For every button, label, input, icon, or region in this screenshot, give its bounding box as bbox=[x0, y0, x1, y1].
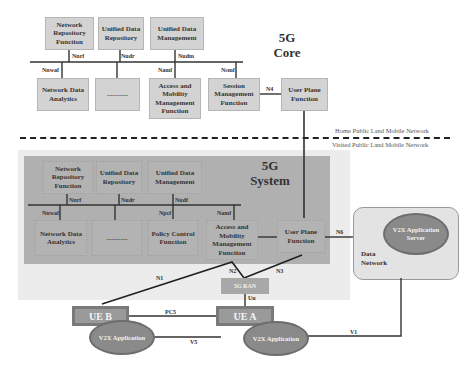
sys-udm-box: Unified Data Management bbox=[148, 161, 202, 194]
sys-if-v1: V1 bbox=[350, 329, 357, 336]
core-udm-label: Unified Data Management bbox=[152, 25, 202, 42]
core-amf-box: Access and Mobility Management Function bbox=[149, 78, 201, 119]
data-network-label: Data Network bbox=[361, 250, 401, 268]
plmn-boundary-line bbox=[20, 137, 450, 139]
sys-title: 5GSystem bbox=[240, 158, 300, 188]
sys-title-line2: System bbox=[240, 173, 300, 188]
sys-if-n2: N2 bbox=[229, 268, 236, 275]
sys-if-nudr: Nudr bbox=[121, 197, 135, 204]
sys-pcf-label: Policy Control Function bbox=[150, 230, 196, 247]
core-if-namf: Namf bbox=[158, 67, 172, 74]
home-plmn-label: Home Public Land Mobile Network bbox=[335, 127, 429, 134]
core-nwdaf-box: Network Data Analytics bbox=[37, 78, 89, 111]
sys-dots-box: ............ bbox=[92, 220, 142, 256]
sys-title-line1: 5G bbox=[240, 158, 300, 173]
sys-upf-box: User Plane Function bbox=[277, 220, 325, 253]
sys-udr-label: Unified Data Repository bbox=[98, 169, 140, 186]
sys-if-n1: N1 bbox=[156, 275, 163, 282]
sys-amf-box: Access and Mobility Management Function bbox=[206, 220, 258, 260]
sys-amf-label: Access and Mobility Management Function bbox=[208, 223, 256, 257]
core-smf-box: Session Management Function bbox=[208, 78, 260, 111]
sys-if-n6: N6 bbox=[336, 229, 343, 236]
sys-if-uu: Uu bbox=[248, 295, 256, 302]
core-if-nudr: Nudr bbox=[121, 53, 135, 60]
core-if-nnrf: Nnrf bbox=[72, 53, 84, 60]
core-title-line1: 5G bbox=[262, 30, 312, 45]
core-dots-label: ............ bbox=[107, 90, 128, 99]
ran-label: 5G RAN bbox=[234, 283, 256, 289]
sys-nwdaf-box: Network Data Analytics bbox=[35, 220, 87, 256]
core-udm-box: Unified Data Management bbox=[150, 17, 204, 50]
visited-plmn-label: Visited Public Land Mobile Network bbox=[332, 141, 428, 148]
sys-if-nnrf: Nnrf bbox=[69, 197, 81, 204]
sys-upf-label: User Plane Function bbox=[279, 228, 323, 245]
core-nrf-label: Network Repository Function bbox=[47, 21, 92, 47]
sys-nrf-box: Network Repository Function bbox=[43, 161, 93, 194]
sys-nrf-label: Network Repository Function bbox=[45, 165, 91, 191]
5g-ran-box: 5G RAN bbox=[221, 278, 269, 294]
core-if-nnwaf: Nnwaf bbox=[42, 67, 59, 74]
sys-udm-label: Unified Data Management bbox=[150, 169, 200, 186]
core-title-line2: Core bbox=[262, 45, 312, 60]
sys-nwdaf-label: Network Data Analytics bbox=[37, 230, 85, 247]
sys-if-v5: V5 bbox=[190, 339, 197, 346]
core-upf-label: User Plane Function bbox=[283, 86, 326, 103]
core-upf-box: User Plane Function bbox=[281, 78, 328, 111]
ue-b-label: UE B bbox=[89, 311, 112, 322]
sys-if-namf: Namf bbox=[217, 210, 231, 217]
sys-if-npcf: Npcf bbox=[159, 210, 171, 217]
core-udr-label: Unified Data Repository bbox=[100, 25, 142, 42]
core-dots-box: ............ bbox=[95, 78, 140, 111]
app-b-label: V2X Application bbox=[99, 334, 145, 342]
core-nwdaf-label: Network Data Analytics bbox=[39, 86, 87, 103]
app-a-label: V2X Application bbox=[253, 335, 299, 343]
sys-if-nnwaf: Nnwaf bbox=[42, 210, 59, 217]
core-amf-label: Access and Mobility Management Function bbox=[151, 82, 199, 116]
v2x-application-server: V2X Application Server bbox=[383, 213, 449, 255]
sys-if-pc5: PC5 bbox=[165, 309, 176, 316]
core-smf-label: Session Management Function bbox=[210, 82, 258, 108]
sys-if-nudf: Nudf bbox=[175, 197, 188, 204]
core-if-n4: N4 bbox=[266, 86, 273, 93]
v2x-server-label: V2X Application Server bbox=[385, 226, 447, 242]
v2x-application-b: V2X Application bbox=[89, 320, 155, 355]
core-if-nsmf: Nsmf bbox=[221, 67, 235, 74]
v2x-application-a: V2X Application bbox=[243, 321, 309, 356]
sys-udr-box: Unified Data Repository bbox=[96, 161, 142, 194]
sys-dots-label: ............ bbox=[107, 234, 128, 243]
core-udr-box: Unified Data Repository bbox=[98, 17, 144, 50]
sys-if-n3: N3 bbox=[276, 268, 283, 275]
core-title: 5GCore bbox=[262, 30, 312, 60]
data-network-text: Data Network bbox=[361, 250, 387, 267]
ue-a-label: UE A bbox=[233, 311, 256, 322]
core-if-nudm: Nudm bbox=[178, 53, 194, 60]
sys-pcf-box: Policy Control Function bbox=[148, 220, 198, 256]
core-nrf-box: Network Repository Function bbox=[45, 17, 94, 50]
